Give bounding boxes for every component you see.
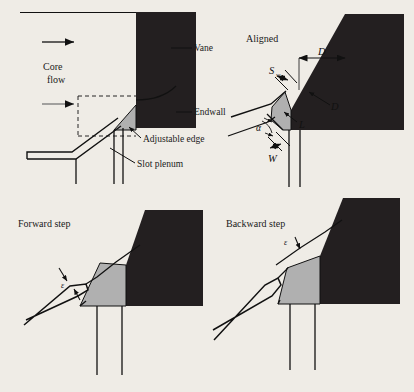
core-flow-label-line1: Core xyxy=(43,61,63,72)
symbol-S-slotwidth: S xyxy=(269,65,275,76)
adjustable-edge-label: Adjustable edge xyxy=(143,134,204,144)
symbol-W-width: W xyxy=(268,153,278,164)
engineering-diagram: Core flow Vane Endwall Adjustable edge S… xyxy=(0,0,414,392)
panel-title-backward-step: Backward step xyxy=(226,218,285,229)
vane-label: Vane xyxy=(194,43,213,53)
symbol-D-inner: D xyxy=(330,101,339,112)
vane-body xyxy=(136,12,196,128)
panel-title-forward-step: Forward step xyxy=(18,218,71,229)
slot-plenum-label: Slot plenum xyxy=(137,159,184,169)
symbol-S-subscript: w xyxy=(276,71,281,78)
symbol-D-depth: D xyxy=(317,46,326,57)
panel-title-aligned: Aligned xyxy=(246,33,278,44)
endwall-label: Endwall xyxy=(194,107,226,117)
symbol-L-length: L xyxy=(298,119,305,130)
core-flow-label-line2: flow xyxy=(47,74,66,85)
